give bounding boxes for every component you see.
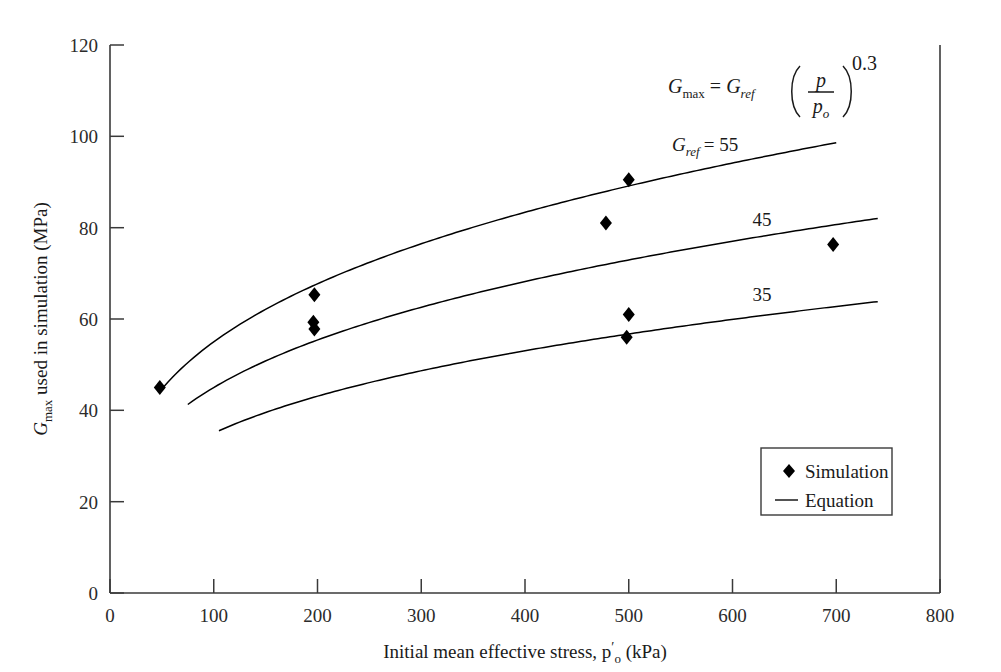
x-axis-units: (kPa): [621, 641, 667, 663]
gref-g-glyph-2: G: [726, 75, 741, 97]
y-tick-label: 20: [79, 492, 98, 513]
x-tick-label: 100: [200, 605, 229, 626]
y-tick-label: 60: [79, 309, 98, 330]
x-tick-label: 700: [822, 605, 851, 626]
x-tick-label: 400: [511, 605, 540, 626]
y-axis-g-glyph: G: [30, 422, 51, 436]
fraction-numerator: p: [814, 69, 826, 92]
x-tick-label: 0: [105, 605, 115, 626]
x-tick-label: 300: [407, 605, 436, 626]
legend-label-simulation: Simulation: [805, 461, 889, 482]
x-axis-title-main: Initial mean effective stress, p: [383, 641, 611, 662]
legend-label-equation: Equation: [805, 490, 874, 511]
equation-equals-sign: =: [710, 75, 721, 97]
x-tick-label: 200: [303, 605, 332, 626]
gref-subscript-2: ref: [741, 86, 757, 101]
legend: Simulation Equation: [761, 448, 892, 515]
fraction-denominator-subscript: o: [823, 106, 830, 121]
y-axis-title-rest: used in simulation (MPa): [30, 202, 52, 399]
gref-equals-value: = 55: [704, 134, 738, 155]
gmax-subscript: max: [682, 86, 705, 101]
y-tick-label: 80: [79, 218, 98, 239]
fraction-denominator: p: [811, 95, 823, 118]
gref-g-glyph: G: [672, 134, 686, 155]
curve-label-35: 35: [753, 284, 772, 305]
y-tick-label: 120: [70, 35, 99, 56]
y-tick-label: 40: [79, 400, 98, 421]
y-tick-label: 100: [70, 126, 99, 147]
x-tick-label: 600: [718, 605, 747, 626]
chart-figure: 0 20 40 60 80 100 120 0 100 200 300 400 …: [0, 0, 1001, 672]
y-axis-subscript: max: [40, 399, 55, 422]
equation-exponent: 0.3: [852, 52, 877, 74]
gmax-g-glyph: G: [668, 75, 683, 97]
x-tick-label: 500: [615, 605, 644, 626]
gref-subscript: ref: [686, 144, 702, 159]
scientific-chart-svg: 0 20 40 60 80 100 120 0 100 200 300 400 …: [0, 0, 1001, 672]
x-tick-label: 800: [926, 605, 955, 626]
y-tick-label: 0: [89, 583, 99, 604]
curve-label-45: 45: [753, 209, 772, 230]
